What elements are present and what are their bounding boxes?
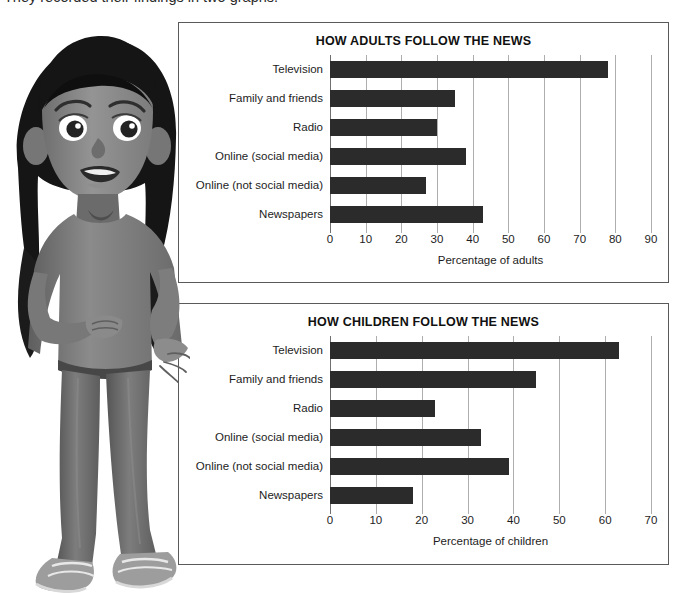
bar-row: Family and friends	[330, 90, 651, 107]
bar	[330, 119, 437, 136]
x-tick-label: 20	[415, 514, 428, 526]
bars-adults: TelevisionFamily and friendsRadioOnline …	[330, 55, 651, 229]
category-label: Radio	[293, 400, 323, 417]
bar	[330, 371, 536, 388]
intro-sentence: They recorded their findings in two grap…	[4, 0, 278, 5]
x-axis-label-children: Percentage of children	[330, 535, 651, 547]
bar	[330, 90, 455, 107]
x-tick-label: 30	[461, 514, 474, 526]
bar	[330, 61, 608, 78]
bar	[330, 148, 466, 165]
x-tick-label: 60	[599, 514, 612, 526]
x-axis-label-adults: Percentage of adults	[330, 254, 651, 266]
x-tick-label: 10	[369, 514, 382, 526]
x-tick-label: 50	[553, 514, 566, 526]
category-label: Online (social media)	[215, 148, 323, 165]
x-tick-label: 70	[573, 233, 586, 245]
legs	[56, 370, 158, 566]
chart-title-children: HOW CHILDREN FOLLOW THE NEWS	[179, 315, 668, 329]
bar-row: Television	[330, 342, 651, 359]
x-tick-label: 10	[359, 233, 372, 245]
plot-area-adults: TelevisionFamily and friendsRadioOnline …	[330, 55, 651, 229]
bar-row: Online (social media)	[330, 429, 651, 446]
bars-children: TelevisionFamily and friendsRadioOnline …	[330, 336, 651, 510]
x-tick-label: 90	[645, 233, 658, 245]
girl-illustration	[0, 18, 190, 593]
category-label: Newspapers	[259, 206, 323, 223]
shoes	[36, 552, 177, 591]
chart-title-adults: HOW ADULTS FOLLOW THE NEWS	[179, 34, 668, 48]
gridline-70	[651, 336, 652, 514]
x-tick-label: 40	[507, 514, 520, 526]
x-tick-label: 0	[327, 233, 333, 245]
category-label: Family and friends	[229, 371, 323, 388]
x-tick-label: 70	[645, 514, 658, 526]
bar-row: Online (not social media)	[330, 177, 651, 194]
category-label: Newspapers	[259, 487, 323, 504]
x-ticks-children: 010203040506070	[330, 514, 651, 530]
category-label: Online (not social media)	[196, 458, 323, 475]
bar	[330, 487, 413, 504]
bar-row: Online (social media)	[330, 148, 651, 165]
chart-panel-adults: HOW ADULTS FOLLOW THE NEWS TelevisionFam…	[178, 22, 669, 283]
bar	[330, 458, 509, 475]
bar	[330, 206, 483, 223]
category-label: Radio	[293, 119, 323, 136]
x-tick-label: 80	[609, 233, 622, 245]
category-label: Television	[273, 61, 324, 78]
bar-row: Newspapers	[330, 206, 651, 223]
bar	[330, 342, 619, 359]
bar-row: Television	[330, 61, 651, 78]
bar	[330, 429, 481, 446]
x-tick-label: 60	[538, 233, 551, 245]
bar-row: Family and friends	[330, 371, 651, 388]
bar-row: Radio	[330, 119, 651, 136]
x-tick-label: 30	[431, 233, 444, 245]
category-label: Family and friends	[229, 90, 323, 107]
plot-area-children: TelevisionFamily and friendsRadioOnline …	[330, 336, 651, 510]
x-tick-label: 40	[466, 233, 479, 245]
x-ticks-adults: 0102030405060708090	[330, 233, 651, 249]
x-tick-label: 20	[395, 233, 408, 245]
bar-row: Online (not social media)	[330, 458, 651, 475]
bar	[330, 177, 426, 194]
category-label: Online (not social media)	[196, 177, 323, 194]
x-tick-label: 50	[502, 233, 515, 245]
gridline-90	[651, 55, 652, 233]
bar-row: Newspapers	[330, 487, 651, 504]
chart-panel-children: HOW CHILDREN FOLLOW THE NEWS TelevisionF…	[178, 303, 669, 565]
x-tick-label: 0	[327, 514, 333, 526]
category-label: Online (social media)	[215, 429, 323, 446]
bar-row: Radio	[330, 400, 651, 417]
category-label: Television	[273, 342, 324, 359]
bar	[330, 400, 435, 417]
